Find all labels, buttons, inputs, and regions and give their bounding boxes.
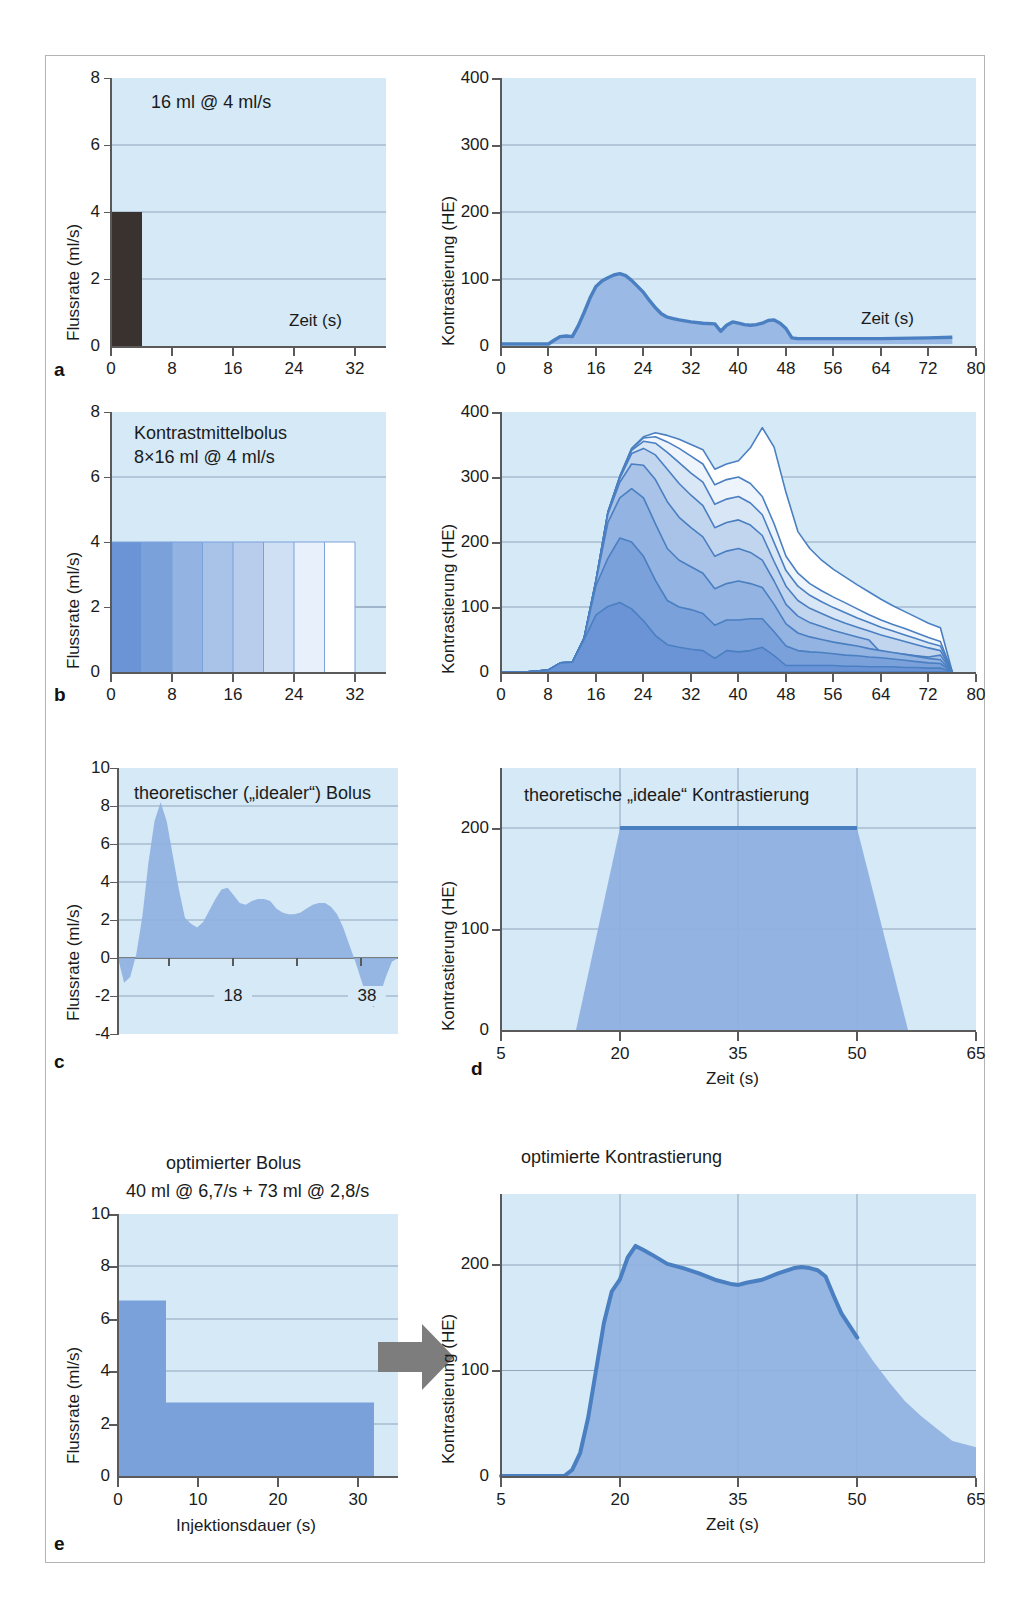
ytick-label-b-left-4: 4 — [64, 532, 100, 552]
y-axis-e-left — [117, 1214, 119, 1477]
ytick-label-e-left-6: 6 — [66, 1309, 110, 1329]
ytick — [104, 412, 111, 413]
xtick-label-c-18: 18 — [214, 986, 252, 1006]
xtick — [117, 1478, 119, 1487]
ytick — [492, 145, 501, 147]
xtick — [357, 1478, 359, 1487]
xtick — [500, 1032, 502, 1041]
xtick — [737, 1478, 739, 1487]
panel-letter-c: c — [54, 1051, 65, 1073]
ytick — [109, 1424, 118, 1426]
y-axis-e-right — [500, 1194, 502, 1477]
ytick-label-a-left-4: 4 — [64, 202, 100, 222]
xtick — [293, 674, 295, 682]
ytick — [104, 607, 111, 608]
x-axis-b-left — [110, 672, 386, 674]
xtick — [642, 674, 644, 682]
ytick-label-c-2: 2 — [66, 910, 110, 930]
ytick-label-a-left-6: 6 — [64, 135, 100, 155]
ytick-label-c-m4: -4 — [66, 1024, 110, 1044]
xtick-label-b-left-16: 16 — [216, 685, 250, 705]
ytick-label-c-8: 8 — [66, 796, 110, 816]
xtick-label-a-right-56: 56 — [816, 359, 850, 379]
xtick-label-b-left-8: 8 — [157, 685, 187, 705]
annotation-c-title: theoretischer („idealer“) Bolus — [134, 782, 371, 806]
xtick-label-a-left-32: 32 — [338, 359, 372, 379]
curve-fill-d — [576, 828, 908, 1030]
xtick-label-d-5: 5 — [486, 1044, 516, 1064]
axis-title-x-e-left: Injektionsdauer (s) — [176, 1516, 316, 1536]
panel-a: a Flussrate (ml/s) 8 6 4 2 0 — [46, 56, 986, 386]
ytick-label-e-right-0: 0 — [441, 1466, 489, 1486]
ytick — [492, 477, 501, 479]
axis-title-y-d: Kontrastierung (HE) — [439, 881, 459, 1031]
xtick — [880, 674, 882, 682]
xtick-label-b-right-56: 56 — [816, 685, 850, 705]
xtick — [500, 674, 502, 682]
xtick-label-c-38: 38 — [348, 986, 386, 1006]
xtick-label-a-left-16: 16 — [216, 359, 250, 379]
annotation-b-left-title: Kontrastmittelbolus — [134, 422, 287, 446]
ytick — [109, 1319, 118, 1321]
ytick-label-d-100: 100 — [441, 919, 489, 939]
ytick-label-b-right-200: 200 — [441, 532, 489, 552]
panel-letter-b: b — [54, 684, 66, 706]
ytick — [492, 1370, 501, 1372]
xtick-label-a-right-0: 0 — [486, 359, 516, 379]
xtick — [277, 1478, 279, 1487]
ytick-label-c-4: 4 — [66, 872, 110, 892]
axis-title-x-a-left: Zeit (s) — [289, 311, 342, 331]
xtick-label-d-20: 20 — [603, 1044, 637, 1064]
xtick — [171, 348, 173, 356]
ytick-label-a-left-0: 0 — [64, 336, 100, 356]
ytick — [492, 78, 501, 80]
ytick — [110, 882, 118, 883]
xtick — [110, 348, 112, 356]
ytick — [110, 806, 118, 807]
xtick — [880, 348, 882, 356]
xtick-label-d-50: 50 — [840, 1044, 874, 1064]
xtick-label-b-right-40: 40 — [721, 685, 755, 705]
ytick — [109, 1371, 118, 1373]
xtick — [856, 1478, 858, 1487]
ytick — [492, 1264, 501, 1266]
panel-d: d Kontrastierung (HE) 200 100 0 5 — [421, 746, 986, 1086]
xtick — [690, 674, 692, 682]
xtick — [296, 958, 298, 966]
xtick-label-a-right-64: 64 — [864, 359, 898, 379]
plot-svg-e-left — [118, 1214, 398, 1476]
ytick-label-a-right-0: 0 — [441, 336, 489, 356]
xtick-label-a-left-24: 24 — [277, 359, 311, 379]
axis-title-x-a-right: Zeit (s) — [861, 309, 914, 329]
curve-fill-c — [118, 802, 398, 1007]
xtick — [293, 348, 295, 356]
xtick-label-b-right-72: 72 — [911, 685, 945, 705]
plot-svg-a-right — [501, 78, 976, 346]
xtick — [197, 1478, 199, 1487]
xtick-label-b-right-64: 64 — [864, 685, 898, 705]
axis-title-y-e-right: Kontrastierung (HE) — [439, 1314, 459, 1464]
xtick — [975, 674, 977, 682]
ytick-label-e-right-100: 100 — [441, 1360, 489, 1380]
xtick-label-a-right-8: 8 — [533, 359, 563, 379]
xtick — [927, 348, 929, 356]
axis-title-x-e-right: Zeit (s) — [706, 1515, 759, 1535]
bolus-steps-e-left — [118, 1301, 374, 1477]
xtick-label-a-left-8: 8 — [157, 359, 187, 379]
annotation-a-left: 16 ml @ 4 ml/s — [151, 91, 271, 115]
xtick — [856, 1032, 858, 1041]
y-axis-c — [117, 768, 119, 1035]
ytick-label-b-right-300: 300 — [441, 467, 489, 487]
stacked-curves-b-right — [501, 428, 952, 672]
xtick — [171, 674, 173, 682]
ytick — [104, 145, 111, 146]
plot-svg-b-right — [501, 412, 976, 672]
ytick-label-e-left-4: 4 — [66, 1361, 110, 1381]
xtick — [737, 348, 739, 356]
xtick-label-a-right-40: 40 — [721, 359, 755, 379]
xtick-label-e-left-20: 20 — [261, 1490, 295, 1510]
x-axis-e-left — [117, 1476, 398, 1478]
xtick-label-b-right-32: 32 — [674, 685, 708, 705]
xtick — [737, 674, 739, 682]
ytick-label-e-left-8: 8 — [66, 1256, 110, 1276]
